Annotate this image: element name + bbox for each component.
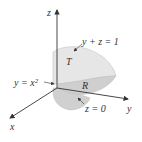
cylinder-label: y = x²	[14, 78, 38, 88]
x-axis	[10, 88, 57, 118]
plane-top-label: y + z = 1	[82, 37, 119, 47]
y-axis-label: y	[127, 104, 131, 114]
plane-bottom-label: z = 0	[85, 104, 106, 114]
pointer-cylinder	[44, 82, 54, 84]
diagram-canvas: z y x y + z = 1 y = x² z = 0 T R	[0, 0, 142, 142]
x-axis-label: x	[10, 122, 14, 132]
z-axis-label: z	[47, 8, 51, 18]
diagram-graphic	[0, 0, 142, 142]
region-R-label: R	[82, 81, 88, 91]
solid-T-label: T	[66, 57, 72, 67]
